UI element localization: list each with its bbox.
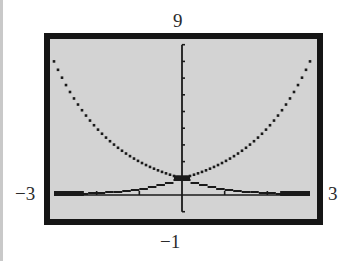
upper-curve-point: [149, 166, 152, 169]
upper-curve-point: [133, 157, 136, 160]
upper-curve-point: [245, 146, 248, 149]
curve-overlap-left: [54, 191, 84, 196]
upper-curve-point: [137, 160, 140, 163]
upper-curve-point: [269, 124, 272, 127]
upper-curve-point: [105, 136, 108, 139]
ymin-label: −1: [160, 232, 180, 251]
curve-overlap-right: [280, 191, 310, 196]
upper-curve-point: [165, 172, 168, 175]
upper-curve-point: [277, 114, 280, 117]
upper-curve-point: [141, 162, 144, 165]
upper-curve-point: [309, 60, 312, 63]
upper-curve-point: [93, 124, 96, 127]
upper-curve-point: [229, 157, 232, 160]
upper-curve-point: [125, 152, 128, 155]
upper-curve-point: [53, 60, 56, 63]
upper-curve-point: [117, 146, 120, 149]
upper-curve-point: [293, 91, 296, 94]
upper-curve-point: [297, 84, 300, 87]
upper-curve-point: [77, 103, 80, 106]
upper-curve-point: [225, 160, 228, 163]
upper-curve-point: [285, 103, 288, 106]
ymax-label: 9: [173, 11, 183, 30]
upper-curve-point: [249, 143, 252, 146]
upper-curve-point: [153, 167, 156, 170]
upper-curve-point: [289, 97, 292, 100]
upper-curve-point: [201, 171, 204, 174]
upper-curve-point: [121, 149, 124, 152]
upper-curve-point: [101, 132, 104, 135]
upper-curve-point: [257, 136, 260, 139]
upper-curve-point: [57, 69, 60, 72]
xmin-label: −3: [15, 184, 35, 203]
upper-curve-point: [209, 167, 212, 170]
upper-curve-point: [253, 140, 256, 143]
upper-curve-point: [237, 152, 240, 155]
upper-curve-point: [157, 169, 160, 172]
upper-curve-point: [109, 140, 112, 143]
upper-curve-point: [221, 162, 224, 165]
upper-curve-point: [113, 143, 116, 146]
upper-curve-point: [145, 164, 148, 167]
upper-curve-point: [265, 128, 268, 131]
upper-curve-point: [161, 171, 164, 174]
upper-curve-point: [73, 97, 76, 100]
intersection-point: [174, 175, 190, 180]
upper-curve-point: [217, 164, 220, 167]
upper-curve-point: [61, 76, 64, 79]
upper-curve-point: [89, 119, 92, 122]
upper-curve-point: [301, 76, 304, 79]
xmax-label: 3: [328, 184, 338, 203]
upper-curve-point: [213, 166, 216, 169]
upper-curve-point: [281, 109, 284, 112]
upper-curve-point: [193, 173, 196, 176]
upper-curve-point: [81, 109, 84, 112]
upper-curve-point: [273, 119, 276, 122]
graph-plot: [0, 0, 353, 261]
upper-curve-point: [197, 172, 200, 175]
upper-curve-point: [65, 84, 68, 87]
upper-curve-point: [129, 155, 132, 158]
upper-curve-point: [205, 169, 208, 172]
upper-curve-point: [233, 155, 236, 158]
upper-curve-point: [97, 128, 100, 131]
upper-curve-point: [261, 132, 264, 135]
upper-curve-point: [169, 173, 172, 176]
upper-curve-point: [85, 114, 88, 117]
upper-curve-point: [241, 149, 244, 152]
upper-curve-point: [305, 69, 308, 72]
upper-curve-point: [69, 91, 72, 94]
